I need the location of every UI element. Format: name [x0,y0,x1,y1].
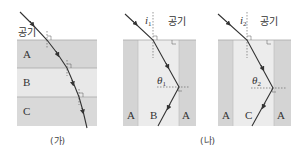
figure-a: 공기 A B C (가) [17,12,97,146]
layer-c-label: C [23,105,30,117]
caption-b: (나) [200,136,215,146]
figure-b-panel-2: 공기 i2 θ2 A C A [218,12,291,126]
core-label: B [150,109,157,121]
refraction-diagram: 공기 A B C (가) 공기 i1 θ1 [0,0,296,151]
layer-b-label: B [23,76,30,88]
right-cladding-label: A [277,109,285,121]
figure-b-panel-1: 공기 i1 θ1 A B A [123,12,196,126]
incident-angle-label: i2 [240,14,247,28]
left-cladding-label: A [127,109,135,121]
core-label: C [245,109,252,121]
air-label: 공기 [260,16,278,27]
air-label: 공기 [18,27,36,38]
caption-a: (가) [50,136,65,146]
incident-angle-label: i1 [145,14,152,28]
left-cladding-label: A [222,109,230,121]
air-label: 공기 [168,16,186,27]
layer-a-label: A [23,48,31,60]
right-cladding-label: A [182,109,190,121]
